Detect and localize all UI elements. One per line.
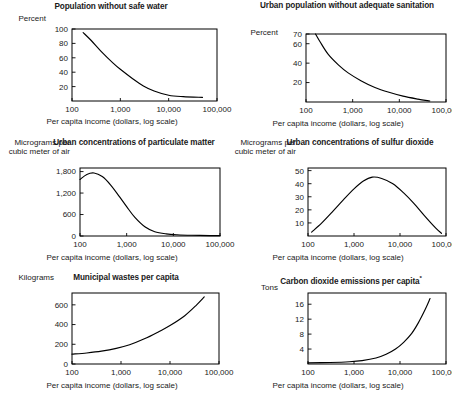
x-tick-label: 10,000 — [387, 106, 412, 115]
y-tick-label: 10 — [295, 219, 304, 228]
plot-frame — [72, 293, 219, 364]
plot-frame — [306, 34, 446, 102]
x-tick-label: 100 — [301, 240, 315, 249]
y-tick-label: 4 — [300, 345, 305, 354]
x-tick-label: 1,000 — [117, 240, 138, 249]
chart-panel-urban-population-without-adequate-sanitation: Urban population without adequate sanita… — [226, 0, 452, 133]
x-tick-label: 1,000 — [343, 106, 364, 115]
x-tick-label: 100 — [299, 106, 313, 115]
x-tick-label: 1,000 — [110, 105, 131, 114]
y-tick-label: 20 — [295, 206, 304, 215]
chart-title: Urban concentrations of sulfur dioxide — [272, 138, 448, 148]
x-tick-label: 100,000 — [432, 106, 452, 115]
x-tick-label: 10,000 — [388, 240, 413, 249]
x-tick-label: 100,000 — [432, 240, 452, 249]
y-tick-label: 40 — [293, 59, 302, 68]
x-axis-caption: Per capita income (dollars, log scale) — [226, 119, 450, 128]
y-tick-label: 50 — [295, 167, 304, 176]
plot-frame — [72, 29, 217, 101]
figure-sheet: Population without safe water Percent 10… — [0, 0, 452, 401]
plot-area: 50403020101001,00010,000100,000 — [284, 164, 447, 260]
y-tick-label: 30 — [295, 193, 304, 202]
y-tick-label: 60 — [293, 40, 302, 49]
y-axis-caption: Kilograms — [0, 273, 54, 282]
x-axis-caption: Per capita income (dollars, log scale) — [0, 117, 224, 126]
y-tick-label: 20 — [293, 78, 302, 87]
y-tick-label: 200 — [55, 340, 69, 349]
y-tick-label: 60 — [59, 54, 68, 63]
y-tick-label: 20 — [59, 83, 68, 92]
y-tick-label: 12 — [295, 315, 304, 324]
x-tick-label: 10,000 — [158, 368, 183, 377]
x-tick-label: 10,000 — [388, 368, 413, 377]
chart-title-text: Carbon dioxide emissions per capita — [280, 277, 419, 286]
x-tick-label: 10,000 — [161, 240, 186, 249]
x-tick-label: 1,000 — [344, 368, 365, 377]
x-tick-label: 100,000 — [432, 368, 452, 377]
y-tick-label: 100 — [55, 25, 69, 34]
footnote-marker: * — [420, 274, 422, 281]
chart-title: Municipal wastes per capita — [30, 273, 222, 283]
x-tick-label: 100 — [73, 240, 87, 249]
y-tick-label: 1,800 — [56, 167, 77, 176]
x-axis-caption: Per capita income (dollars, log scale) — [226, 381, 450, 390]
chart-svg: 60040020001001,00010,000100,000 — [48, 289, 220, 385]
x-axis-caption: Per capita income (dollars, log scale) — [0, 253, 224, 262]
x-tick-label: 1,000 — [344, 240, 365, 249]
chart-svg: 100806040201001,00010,000100,000 — [48, 25, 218, 125]
chart-panel-municipal-wastes-per-capita: Municipal wastes per capita Kilograms 60… — [0, 266, 226, 399]
y-tick-label: 1,200 — [56, 189, 77, 198]
chart-title: Population without safe water — [0, 2, 222, 12]
plot-area: 100806040201001,00010,000100,000 — [48, 25, 218, 125]
chart-svg: 50403020101001,00010,000100,000 — [284, 164, 447, 260]
y-tick-label: 40 — [295, 180, 304, 189]
y-tick-label: 70 — [293, 30, 302, 39]
plot-area: 1612841001,00010,000100,000 — [284, 289, 447, 385]
x-tick-label: 100 — [301, 368, 315, 377]
chart-svg: 1,8001,20060001001,00010,000100,000 — [56, 164, 221, 260]
y-axis-caption: Micrograms per cubic meter of air — [226, 138, 296, 157]
chart-panel-population-without-safe-water: Population without safe water Percent 10… — [0, 0, 226, 133]
chart-title: Carbon dioxide emissions per capita* — [254, 273, 448, 286]
x-axis-caption: Per capita income (dollars, log scale) — [226, 253, 450, 262]
x-tick-label: 10,000 — [156, 105, 181, 114]
y-tick-label: 600 — [55, 301, 69, 310]
x-tick-label: 100 — [65, 105, 79, 114]
plot-frame — [308, 168, 446, 236]
y-tick-label: 80 — [59, 39, 68, 48]
y-axis-caption: Micrograms per cubic meter of air — [0, 138, 70, 157]
chart-panel-urban-concentrations-of-particulate-matter: Urban concentrations of particulate matt… — [0, 133, 226, 266]
y-tick-label: 400 — [55, 320, 69, 329]
y-axis-caption: Percent — [0, 14, 46, 23]
chart-panel-urban-concentrations-of-sulfur-dioxide: Urban concentrations of sulfur dioxide M… — [226, 133, 452, 266]
x-axis-caption: Per capita income (dollars, log scale) — [0, 381, 224, 390]
chart-title: Urban population without adequate sanita… — [246, 1, 448, 11]
x-tick-label: 1,000 — [111, 368, 132, 377]
chart-panel-carbon-dioxide-emissions-per-capita: Carbon dioxide emissions per capita* Ton… — [226, 266, 452, 399]
y-tick-label: 8 — [300, 330, 305, 339]
y-axis-caption: Tons — [236, 283, 278, 292]
y-tick-label: 600 — [63, 210, 77, 219]
plot-frame — [308, 293, 446, 364]
y-tick-label: 40 — [59, 68, 68, 77]
chart-svg: 706040201001,00010,000100,000 — [282, 30, 447, 126]
y-axis-caption: Percent — [236, 28, 278, 37]
plot-area: 60040020001001,00010,000100,000 — [48, 289, 220, 385]
chart-title: Urban concentrations of particulate matt… — [46, 138, 222, 148]
chart-svg: 1612841001,00010,000100,000 — [284, 289, 447, 385]
y-tick-label: 16 — [295, 300, 304, 309]
plot-frame — [80, 168, 220, 236]
x-tick-label: 100 — [65, 368, 79, 377]
plot-area: 1,8001,20060001001,00010,000100,000 — [56, 164, 221, 260]
plot-area: 706040201001,00010,000100,000 — [282, 30, 447, 126]
